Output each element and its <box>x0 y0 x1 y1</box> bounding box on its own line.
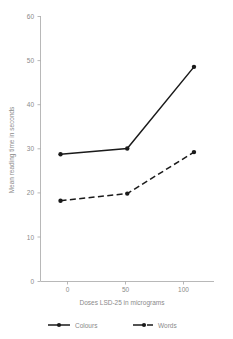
series-words <box>58 150 196 203</box>
x-tick-label: 0 <box>66 286 70 293</box>
x-tick-label: 50 <box>122 286 130 293</box>
legend-label-colours: Colours <box>75 322 98 329</box>
y-tick-label: 60 <box>27 13 35 20</box>
data-point <box>125 191 129 195</box>
y-tick-label: 50 <box>27 57 35 64</box>
y-tick-label: 10 <box>27 234 35 241</box>
y-tick-label: 40 <box>27 101 35 108</box>
x-axis-title: Doses LSD-25 in micrograms <box>80 299 166 307</box>
chart-canvas: 60 50 40 30 20 10 0 0 50 100 Doses LSD-2… <box>0 0 233 339</box>
legend-marker-circle <box>57 323 61 327</box>
y-axis-ticks <box>38 17 41 282</box>
series-colours-markers <box>58 65 196 157</box>
legend-marker-circle <box>142 323 146 327</box>
series-colours-line <box>61 67 194 154</box>
chart-legend: Colours Words <box>48 322 177 329</box>
data-point <box>192 150 196 154</box>
data-point <box>192 65 196 69</box>
legend-label-words: Words <box>158 322 177 329</box>
y-axis-tick-labels: 60 50 40 30 20 10 0 <box>27 13 35 285</box>
data-point <box>58 152 62 156</box>
legend-entry-colours[interactable]: Colours <box>48 322 98 329</box>
series-colours <box>58 65 196 157</box>
x-tick-label: 100 <box>178 286 189 293</box>
y-tick-label: 30 <box>27 145 35 152</box>
data-point <box>125 146 129 150</box>
series-words-markers <box>58 150 196 203</box>
y-tick-label: 20 <box>27 189 35 196</box>
y-axis-title: Mean reading time in seconds <box>8 106 16 193</box>
x-axis-ticks <box>68 282 184 285</box>
y-tick-label: 0 <box>30 278 34 285</box>
data-point <box>58 198 62 202</box>
line-chart: 60 50 40 30 20 10 0 0 50 100 Doses LSD-2… <box>0 0 233 339</box>
x-axis-tick-labels: 0 50 100 <box>66 286 190 293</box>
legend-entry-words[interactable]: Words <box>133 322 177 329</box>
